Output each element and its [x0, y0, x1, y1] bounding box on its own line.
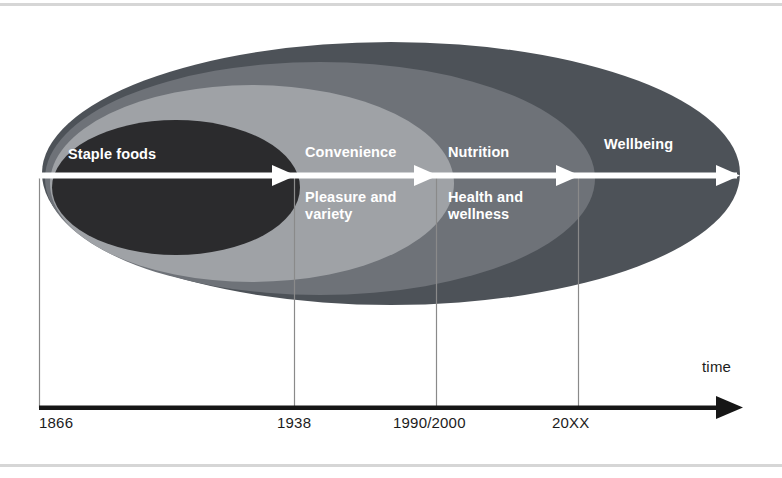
ellipse-staple-foods — [52, 120, 300, 255]
axis-tick-label-1938: 1938 — [277, 414, 311, 431]
axis-title-time: time — [702, 358, 731, 375]
time-axis-line — [39, 406, 725, 411]
time-axis — [39, 396, 743, 419]
diagram-canvas: Staple foods Convenience Pleasure and va… — [0, 0, 782, 478]
axis-tick-label-1990-2000: 1990/2000 — [393, 414, 466, 431]
axis-tick-label-20xx: 20XX — [552, 414, 590, 431]
white-arrow-shaft — [39, 173, 737, 179]
time-axis-arrowhead — [716, 396, 743, 419]
nested-ellipse-graphic — [0, 0, 782, 478]
axis-tick-label-1866: 1866 — [39, 414, 73, 431]
